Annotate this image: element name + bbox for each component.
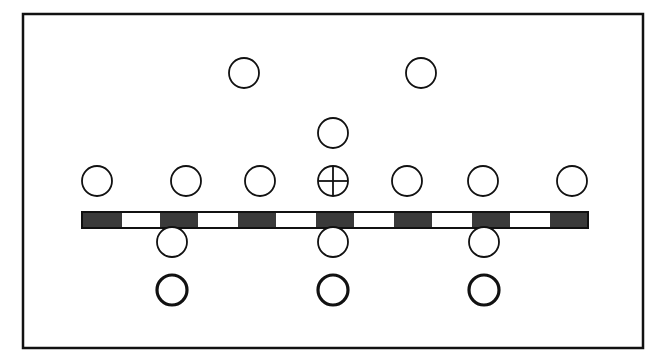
circle-marker	[229, 58, 259, 88]
circle-marker	[171, 166, 201, 196]
circle-marker	[318, 227, 348, 257]
bar-segment-light	[122, 212, 160, 228]
circle-marker	[157, 227, 187, 257]
bold-circle-marker	[157, 275, 187, 305]
circle-marker	[82, 166, 112, 196]
bar-segment-light	[276, 212, 316, 228]
bar-segment-dark	[316, 212, 354, 228]
bar-segment-dark	[472, 212, 510, 228]
circle-marker	[469, 227, 499, 257]
circle-marker	[406, 58, 436, 88]
bar-segment-dark	[394, 212, 432, 228]
bar-segment-light	[354, 212, 394, 228]
bar-segment-dark	[238, 212, 276, 228]
bar-segment-dark	[550, 212, 588, 228]
bar-segment-light	[198, 212, 238, 228]
circle-marker	[468, 166, 498, 196]
bar-segment-dark	[82, 212, 122, 228]
bar-segment-light	[510, 212, 550, 228]
bold-circle-marker	[469, 275, 499, 305]
circle-marker	[557, 166, 587, 196]
markers-group	[82, 58, 587, 305]
line-bar	[82, 212, 588, 228]
circle-marker	[392, 166, 422, 196]
bold-circle-marker	[318, 275, 348, 305]
bar-segment-dark	[160, 212, 198, 228]
formation-diagram	[0, 0, 659, 363]
circle-marker	[245, 166, 275, 196]
bar-segment-light	[432, 212, 472, 228]
circle-marker	[318, 118, 348, 148]
